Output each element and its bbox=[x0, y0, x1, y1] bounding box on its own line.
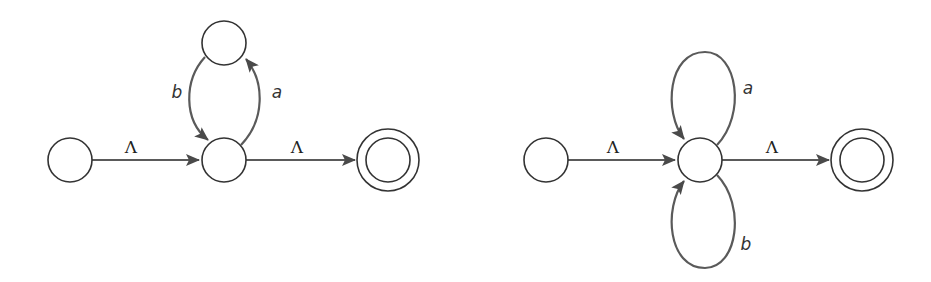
state-start bbox=[524, 138, 568, 182]
label-b: b bbox=[741, 234, 752, 254]
edge-middle-to-top-a bbox=[241, 59, 260, 145]
label-a: a bbox=[743, 78, 753, 98]
edge-top-to-middle-b bbox=[189, 57, 208, 140]
label-b: b bbox=[172, 82, 183, 102]
state-final-accepting bbox=[831, 129, 893, 191]
state-middle bbox=[202, 138, 246, 182]
label-a: a bbox=[272, 82, 282, 102]
state-final-accepting bbox=[357, 129, 419, 191]
label-lambda: Λ bbox=[124, 137, 138, 157]
label-lambda: Λ bbox=[765, 137, 779, 157]
self-loop-b bbox=[672, 175, 735, 268]
left-nfa: Λ Λ a b bbox=[48, 21, 419, 191]
label-lambda: Λ bbox=[606, 137, 620, 157]
state-start bbox=[48, 138, 92, 182]
state-middle bbox=[678, 138, 722, 182]
right-nfa: Λ Λ a b bbox=[524, 52, 893, 268]
self-loop-a bbox=[672, 52, 735, 145]
diagram-canvas: Λ Λ a b Λ Λ a b bbox=[0, 0, 931, 282]
label-lambda: Λ bbox=[290, 137, 304, 157]
state-top bbox=[202, 21, 246, 65]
